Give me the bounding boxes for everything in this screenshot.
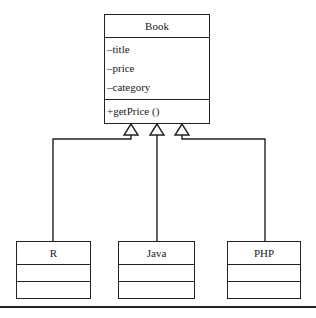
- attributes-section: [17, 264, 90, 281]
- inheritance-arrow-php: [175, 124, 189, 135]
- attribute-title: –title: [107, 42, 209, 61]
- class-book: Book –title –price –category +getPrice (…: [104, 14, 210, 124]
- methods-section: [228, 281, 300, 298]
- attributes-section: [228, 264, 300, 281]
- figure-bottom-rule: [0, 306, 316, 308]
- class-java: Java: [118, 241, 195, 299]
- attribute-category: –category: [107, 80, 209, 99]
- methods-section: +getPrice (): [105, 99, 209, 123]
- connector-php: [182, 135, 265, 241]
- connector-r: [53, 135, 131, 241]
- attribute-price: –price: [107, 61, 209, 80]
- attributes-section: [119, 264, 194, 281]
- class-name-php: PHP: [228, 242, 300, 264]
- methods-section: [17, 281, 90, 298]
- class-r: R: [16, 241, 91, 299]
- class-name-book: Book: [105, 15, 209, 37]
- method-getprice: +getPrice (): [107, 104, 209, 119]
- class-name-java: Java: [119, 242, 194, 264]
- attributes-section: –title –price –category: [105, 37, 209, 99]
- class-name-r: R: [17, 242, 90, 264]
- inheritance-arrow-r: [124, 124, 138, 135]
- methods-section: [119, 281, 194, 298]
- class-php: PHP: [227, 241, 301, 299]
- inheritance-arrow-java: [150, 124, 164, 135]
